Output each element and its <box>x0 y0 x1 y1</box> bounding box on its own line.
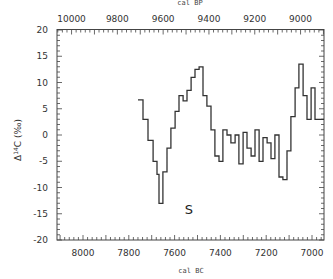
bottom-axis-tick-labels: 800078007600740072007000 <box>72 248 324 258</box>
x-tick-label: 7400 <box>209 248 232 258</box>
x-tick-label: 7600 <box>163 248 186 258</box>
top-axis-tick-labels: 1000098009600940092009000 <box>57 14 312 24</box>
y-tick-label: 10 <box>37 78 49 88</box>
y-tick-label: 20 <box>37 25 49 35</box>
y-tick-label: 0 <box>42 130 48 140</box>
data-series-step-line <box>138 64 324 203</box>
y-axis-tick-labels: 20151050-5-10-15-20 <box>33 25 48 245</box>
y-tick-label: -20 <box>33 235 48 245</box>
y-tick-label: 5 <box>42 104 48 114</box>
y-tick-label: -5 <box>39 156 48 166</box>
top-axis-title: cal BP <box>177 0 202 7</box>
top-tick-label: 9600 <box>152 14 175 24</box>
y-tick-label: -15 <box>33 209 48 219</box>
x-tick-label: 7200 <box>255 248 278 258</box>
top-tick-label: 9000 <box>289 14 312 24</box>
top-tick-label: 9800 <box>106 14 129 24</box>
svg-text:Δ14C (‰): Δ14C (‰) <box>12 119 23 161</box>
y-tick-label: -10 <box>33 183 48 193</box>
top-tick-label: 10000 <box>57 14 86 24</box>
top-tick-label: 9200 <box>243 14 266 24</box>
bottom-axis-title: cal BC <box>178 267 203 275</box>
x-tick-label: 7000 <box>301 248 324 258</box>
annotation-label: S <box>185 202 193 217</box>
x-tick-label: 7800 <box>117 248 140 258</box>
y-tick-label: 15 <box>37 51 48 61</box>
x-tick-label: 8000 <box>72 248 95 258</box>
radiocarbon-chart: cal BP 1000098009600940092009000 8000780… <box>0 0 333 279</box>
y-axis-title: Δ14C (‰) <box>12 119 23 161</box>
top-tick-label: 9400 <box>197 14 220 24</box>
